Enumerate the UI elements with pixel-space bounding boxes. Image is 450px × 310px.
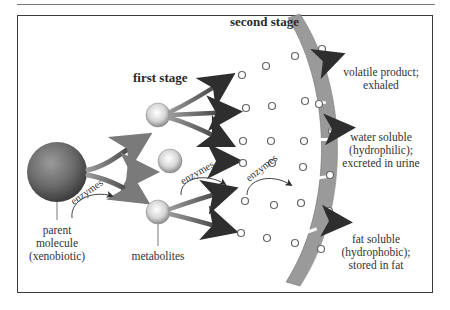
water-line-2: (hydrophilic); — [336, 144, 426, 157]
water-line-1: water soluble — [336, 131, 426, 144]
fat-line-3: stored in fat — [336, 259, 416, 272]
parent-molecule-label: parent molecule (xenobiotic) — [22, 224, 92, 263]
metabolite-spheres — [146, 103, 182, 246]
volatile-line-1: volatile product; — [336, 66, 426, 79]
fat-soluble-label: fat soluble (hydrophobic); stored in fat — [336, 233, 416, 272]
fat-line-2: (hydrophobic); — [336, 246, 416, 259]
fat-line-1: fat soluble — [336, 233, 416, 246]
parent-label-line-3: (xenobiotic) — [22, 250, 92, 263]
enzymes-arrows — [72, 178, 291, 218]
first-stage-title: first stage — [133, 70, 188, 86]
parent-molecule — [27, 142, 87, 220]
metabolites-label: metabolites — [128, 250, 188, 263]
parent-label-line-2: molecule — [22, 237, 92, 250]
volatile-line-2: exhaled — [336, 79, 426, 92]
water-line-3: excreted in urine — [336, 157, 426, 170]
water-soluble-label: water soluble (hydrophilic); excreted in… — [336, 131, 426, 170]
volatile-product-label: volatile product; exhaled — [336, 66, 426, 92]
parent-label-line-1: parent — [22, 224, 92, 237]
second-stage-title: second stage — [230, 14, 299, 30]
